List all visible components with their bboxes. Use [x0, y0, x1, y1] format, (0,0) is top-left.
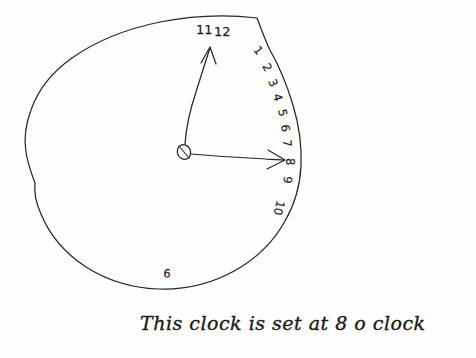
numeral-12: 12: [214, 24, 231, 39]
numeral-4: 4: [270, 92, 285, 103]
clock-face-outline: [25, 16, 301, 289]
caption-label: This clock is set at 8 o clock: [140, 312, 426, 334]
numeral-9: 9: [280, 176, 294, 184]
numeral-8: 8: [283, 158, 297, 165]
stray-numeral-6: 6: [163, 266, 172, 281]
drawing-canvas: 11 12 1 2 3 4 5 6 7 8 9 10 6 This clock …: [0, 0, 476, 358]
numeral-5: 5: [275, 108, 290, 118]
numeral-7: 7: [280, 139, 294, 147]
numeral-3: 3: [265, 77, 281, 89]
handwritten-caption: This clock is set at 8 o clock: [140, 312, 426, 334]
numeral-6: 6: [278, 123, 293, 132]
numeral-11: 11: [196, 22, 213, 37]
numeral-2: 2: [259, 61, 275, 74]
numeral-1: 1: [251, 43, 267, 57]
clock-sketch: 11 12 1 2 3 4 5 6 7 8 9 10 6 This clock …: [0, 0, 476, 358]
hour-hand: [191, 150, 285, 169]
numeral-10: 10: [271, 199, 288, 217]
stray-numeral-label: 6: [163, 266, 172, 281]
center-hub: [175, 143, 193, 162]
minute-hand: [185, 47, 216, 144]
